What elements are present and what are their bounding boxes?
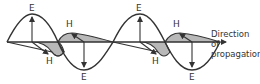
h-label-3: H [152,56,159,66]
e-label-3: E [136,3,142,13]
e-label-2: E [81,72,87,82]
h-field-wave [7,33,220,56]
e-label-1: E [29,3,35,13]
h-label-1: H [46,56,53,66]
em-wave-diagram: E H H E E H H E Direction of propagation [0,0,260,84]
caption-direction: Direction [211,29,249,39]
e-label-4: E [189,72,195,82]
caption-of: of [211,39,220,49]
h-label-2: H [66,19,73,29]
caption-propagation: propagation [211,49,260,59]
h-label-4: H [173,19,180,29]
